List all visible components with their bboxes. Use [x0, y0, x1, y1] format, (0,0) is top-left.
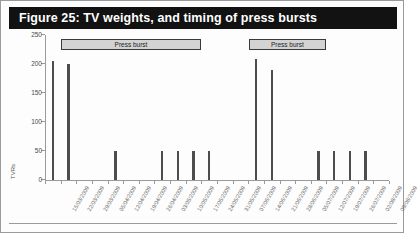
x-axis-tick-mark — [311, 181, 312, 184]
x-axis-tick-mark — [389, 181, 390, 184]
bar — [349, 151, 351, 180]
chart-container: TVRs 050100150200250 Press burstPress bu… — [9, 31, 397, 196]
y-axis-tick: 50 — [45, 150, 49, 151]
y-axis-tick-label: 0 — [38, 176, 42, 183]
bar — [333, 151, 335, 180]
bar — [52, 61, 54, 180]
x-axis-tick-mark — [295, 181, 296, 184]
x-axis-tick-mark — [201, 181, 202, 184]
bar — [271, 70, 273, 180]
bar — [255, 59, 257, 180]
x-axis-tick-mark — [342, 181, 343, 184]
y-axis-tick-label: 200 — [31, 60, 42, 67]
bar — [317, 151, 319, 180]
x-axis-tick-mark — [264, 181, 265, 184]
x-axis-tick-mark — [373, 181, 374, 184]
x-axis-tick-mark — [217, 181, 218, 184]
y-axis-tick: 250 — [45, 34, 49, 35]
x-axis-tick-mark — [123, 181, 124, 184]
y-axis-tick-label: 150 — [31, 89, 42, 96]
y-axis-tick-label: 100 — [31, 118, 42, 125]
x-axis-tick-mark — [108, 181, 109, 184]
x-axis-tick-mark — [358, 181, 359, 184]
y-axis-tick: 100 — [45, 121, 49, 122]
x-axis-tick-mark — [139, 181, 140, 184]
bar — [67, 64, 69, 180]
x-axis-tick-mark — [233, 181, 234, 184]
x-axis-tick-mark — [45, 181, 46, 184]
bar — [208, 151, 210, 180]
x-axis-tick-mark — [170, 181, 171, 184]
x-axis-tick-mark — [92, 181, 93, 184]
plot-area: 050100150200250 Press burstPress burst — [45, 35, 389, 181]
bar — [364, 151, 366, 180]
x-axis-labels: 15/03/200922/03/200929/03/200905/04/2009… — [45, 185, 389, 240]
y-axis-tick-label: 250 — [31, 31, 42, 38]
x-axis-tick-mark — [154, 181, 155, 184]
x-axis-tick-mark — [76, 181, 77, 184]
y-axis-title-wrap: TVRs — [11, 91, 21, 151]
y-axis-title: TVRs — [10, 164, 16, 179]
x-axis-tick-mark — [280, 181, 281, 184]
y-axis-line — [45, 35, 46, 181]
x-axis-tick-mark — [61, 181, 62, 184]
footer-rule — [9, 223, 397, 224]
y-axis-tick-label: 50 — [35, 147, 42, 154]
x-axis-tick-mark — [326, 181, 327, 184]
y-axis-tick: 200 — [45, 63, 49, 64]
x-axis-tick-mark — [186, 181, 187, 184]
bar — [161, 151, 163, 180]
bar — [192, 151, 194, 180]
bar — [177, 151, 179, 180]
bar — [114, 151, 116, 180]
press-burst-label: Press burst — [249, 39, 326, 50]
page-title: Figure 25: TV weights, and timing of pre… — [9, 11, 317, 25]
press-burst-label: Press burst — [61, 39, 200, 50]
x-axis-tick-mark — [248, 181, 249, 184]
y-axis-tick: 0 — [45, 179, 49, 180]
figure-title-bar: Figure 25: TV weights, and timing of pre… — [9, 7, 397, 29]
y-axis-tick: 150 — [45, 92, 49, 93]
